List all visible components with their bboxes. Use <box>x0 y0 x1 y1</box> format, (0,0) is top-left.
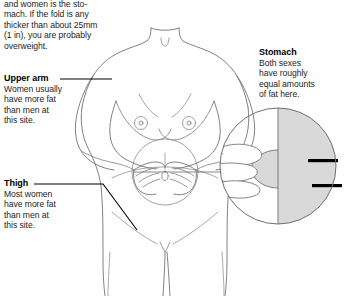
callout-upper-arm: Upper arm Women usually have more fat th… <box>4 73 108 126</box>
right-finger-2 <box>171 173 191 182</box>
right-areola <box>183 117 196 130</box>
left-chest-shade <box>139 94 158 117</box>
left-thigh-shade <box>108 252 110 296</box>
left-finger-2 <box>139 173 159 182</box>
pubic-triangle <box>160 242 170 252</box>
right-hand-outline <box>174 170 196 195</box>
neck-base-line <box>151 28 179 30</box>
upper-arm-heading-row: Upper arm <box>4 73 108 84</box>
intro-line-3: thicker than about 25mm <box>4 20 116 30</box>
navel <box>162 171 168 180</box>
right-nipple <box>187 121 191 125</box>
thigh-line-3: than men at <box>4 210 108 220</box>
stomach-line-1: Both sexes <box>259 58 341 68</box>
inset-knuckle-line-1 <box>206 153 223 155</box>
left-nipple <box>139 121 143 125</box>
right-thigh-shade <box>222 252 224 296</box>
magnified-inset-group <box>204 108 342 224</box>
right-upper-arm-inner <box>174 101 220 169</box>
intro-line-5: overweight. <box>4 41 116 51</box>
right-groin-crease <box>173 212 218 244</box>
thigh-line-2: have more fat <box>4 199 108 209</box>
right-breast-curve <box>159 101 214 140</box>
left-areola <box>135 117 148 130</box>
thigh-line-4: this site. <box>4 220 108 230</box>
thigh-line-1: Most women <box>4 189 108 199</box>
intro-paragraph: and women is the sto- mach. If the fold … <box>4 0 116 51</box>
right-finger-3 <box>170 179 187 187</box>
fold-measure-bar-top <box>308 159 338 162</box>
intro-line-2: mach. If the fold is any <box>4 9 116 19</box>
left-upper-arm-inner <box>110 101 156 169</box>
upper-arm-line-1: Women usually <box>4 84 108 94</box>
thigh-heading-row: Thigh <box>4 178 108 189</box>
callout-thigh: Thigh Most women have more fat than men … <box>4 178 108 231</box>
upper-arm-line-3: than men at <box>4 105 108 115</box>
left-groin-crease <box>112 212 157 244</box>
thigh-heading: Thigh <box>4 178 28 189</box>
inset-skin-shade <box>278 108 336 224</box>
left-hand-outline <box>134 170 156 195</box>
stomach-line-4: of fat here. <box>259 89 341 99</box>
fold-measure-bar-bottom <box>312 184 342 187</box>
stomach-heading: Stomach <box>259 47 341 58</box>
upper-arm-line-4: this site. <box>4 115 108 125</box>
callout-stomach: Stomach Both sexes have roughly equal am… <box>259 47 341 100</box>
left-breast-curve <box>116 101 171 140</box>
upper-arm-heading: Upper arm <box>4 73 49 84</box>
upper-arm-line-2: have more fat <box>4 94 108 104</box>
stomach-line-3: equal amounts <box>259 79 341 89</box>
sternal-notch <box>161 38 169 46</box>
body-right-shoulder-line <box>179 28 248 107</box>
left-finger-3 <box>143 179 160 187</box>
inset-finger-bottom <box>212 181 260 198</box>
inner-thigh-right <box>167 252 170 296</box>
right-chest-shade <box>172 94 191 117</box>
intro-line-1: and women is the sto- <box>4 0 116 9</box>
intro-line-4: (1 in), you are probably <box>4 30 116 40</box>
stomach-line-2: have roughly <box>259 68 341 78</box>
inner-thigh-left <box>163 252 165 296</box>
illustration-page: and women is the sto- mach. If the fold … <box>0 0 347 296</box>
